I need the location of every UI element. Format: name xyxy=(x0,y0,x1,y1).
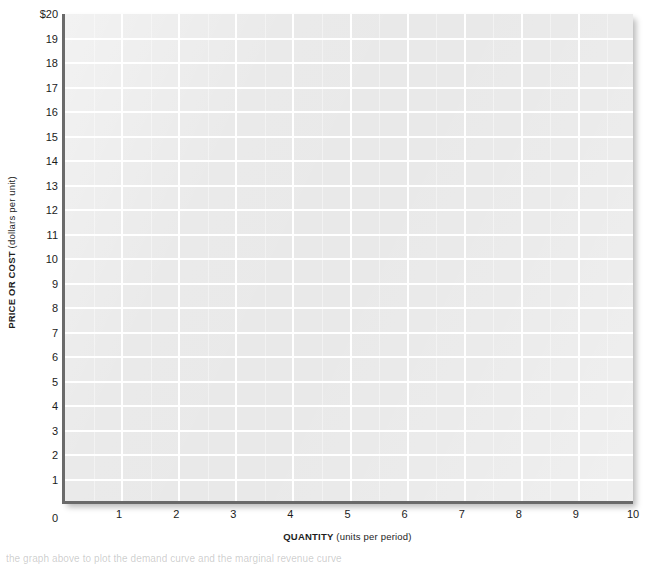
gridline-vertical xyxy=(121,14,123,501)
x-tick-label: 3 xyxy=(230,509,236,520)
y-tick-label: 19 xyxy=(22,33,58,44)
gridline-vertical xyxy=(407,14,409,501)
gridline-vertical-minor xyxy=(322,14,323,501)
gridline-vertical xyxy=(521,14,523,501)
gridline-vertical-minor xyxy=(265,14,266,501)
plot-area xyxy=(65,14,633,501)
y-tick-label: 9 xyxy=(22,278,58,289)
y-tick-label: 2 xyxy=(22,450,58,461)
y-tick-label: 10 xyxy=(22,254,58,265)
y-tick-label: 8 xyxy=(22,303,58,314)
gridline-vertical-minor xyxy=(550,14,551,501)
y-tick-label: 3 xyxy=(22,425,58,436)
y-tick-label: 18 xyxy=(22,58,58,69)
y-axis-title-units: (dollars per unit) xyxy=(6,176,17,248)
y-tick-label: 11 xyxy=(22,229,58,240)
page-footer-clipped-text: the graph above to plot the demand curve… xyxy=(6,554,646,564)
gridline-vertical-minor xyxy=(436,14,437,501)
y-tick-label: 5 xyxy=(22,376,58,387)
x-tick-label: 10 xyxy=(627,509,639,520)
x-tick-label: 5 xyxy=(344,509,350,520)
y-tick-label: 12 xyxy=(22,205,58,216)
y-tick-label-origin: 0 xyxy=(22,513,58,524)
x-axis-title: QUANTITY (units per period) xyxy=(62,531,633,542)
y-axis-tick-labels: 12345678910111213141516171819$200 xyxy=(22,14,58,504)
gridline-vertical xyxy=(350,14,352,501)
x-tick-label: 6 xyxy=(402,509,408,520)
gridline-vertical-minor xyxy=(607,14,608,501)
x-axis-tick-labels: 012345678910 xyxy=(62,509,633,527)
x-axis-title-main: QUANTITY xyxy=(283,531,333,542)
plot-frame xyxy=(62,14,633,504)
x-tick-label: 1 xyxy=(116,509,122,520)
gridline-vertical-minor xyxy=(94,14,95,501)
y-axis-title: PRICE OR COST (dollars per unit) xyxy=(0,0,22,504)
x-axis-title-units: (units per period) xyxy=(336,531,411,542)
gridline-vertical xyxy=(292,14,294,501)
x-tick-label: 4 xyxy=(287,509,293,520)
gridline-vertical-minor xyxy=(379,14,380,501)
gridline-vertical xyxy=(464,14,466,501)
gridline-vertical-minor xyxy=(208,14,209,501)
gridline-vertical xyxy=(235,14,237,501)
y-tick-label: 16 xyxy=(22,107,58,118)
x-tick-label: 8 xyxy=(516,509,522,520)
y-tick-label: 6 xyxy=(22,352,58,363)
y-tick-label: 4 xyxy=(22,401,58,412)
x-tick-label: 2 xyxy=(173,509,179,520)
x-tick-label: 7 xyxy=(459,509,465,520)
y-tick-label: 17 xyxy=(22,82,58,93)
gridline-vertical-minor xyxy=(151,14,152,501)
y-tick-label: 13 xyxy=(22,180,58,191)
y-tick-label: 1 xyxy=(22,474,58,485)
y-tick-label: 14 xyxy=(22,156,58,167)
y-tick-label: 15 xyxy=(22,131,58,142)
gridline-vertical xyxy=(578,14,580,501)
gridline-vertical xyxy=(178,14,180,501)
x-tick-label: 9 xyxy=(573,509,579,520)
y-axis-title-main: PRICE OR COST xyxy=(6,251,17,329)
chart-figure: PRICE OR COST (dollars per unit) 1234567… xyxy=(0,0,655,564)
y-tick-label: $20 xyxy=(22,9,58,20)
gridline-vertical-minor xyxy=(493,14,494,501)
y-tick-label: 7 xyxy=(22,327,58,338)
